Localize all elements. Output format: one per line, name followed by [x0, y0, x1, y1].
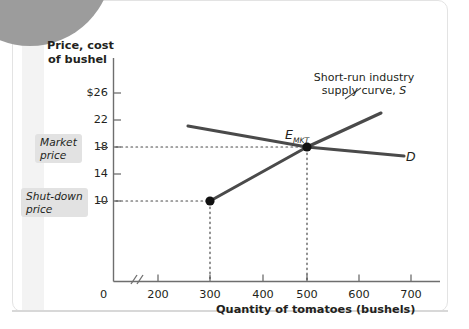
y-tick-label-22: 22	[60, 113, 108, 126]
callout-shutdown-price-line1: Shut-down	[26, 190, 83, 202]
axis-break-marks	[131, 275, 143, 284]
x-tick-label-700: 700	[391, 288, 431, 301]
y-axis-title: Price, cost of bushel	[47, 39, 107, 66]
supply-curve-label-line2: supply curve,	[322, 84, 396, 97]
x-tick-label-200: 200	[138, 288, 178, 301]
y-axis-title-line2: of bushel	[48, 53, 107, 66]
supply-curve-label: Short-run industry supply curve, S	[302, 71, 426, 97]
callout-market-price-leader	[97, 147, 108, 148]
shutdown-point-dot	[205, 196, 214, 205]
equilibrium-label-main: E	[285, 127, 293, 142]
x-axis-origin-label: 0	[100, 288, 107, 301]
equilibrium-label-sub: MKT	[293, 136, 309, 145]
y-tick-label-26: $26	[60, 86, 108, 99]
supply-curve-symbol: S	[399, 84, 406, 97]
x-tick-label-300: 300	[190, 288, 230, 301]
y-axis-title-line1: Price, cost	[47, 39, 114, 52]
callout-market-price-line1: Market	[40, 136, 77, 148]
callout-market-price-line2: price	[40, 149, 66, 161]
callout-shutdown-price: Shut-down price	[21, 188, 88, 217]
callout-shutdown-price-line2: price	[26, 203, 52, 215]
callout-shutdown-price-leader	[97, 201, 108, 202]
y-tick-label-14: 14	[60, 167, 108, 180]
figure-root: Price, cost of bushel $26 22 18 14 10 0 …	[0, 0, 469, 329]
demand-curve-label: D	[406, 149, 416, 164]
x-tick-label-500: 500	[287, 288, 327, 301]
x-tick-label-400: 400	[243, 288, 283, 301]
equilibrium-point-label: EMKT	[285, 124, 309, 145]
x-tick-marks	[158, 275, 411, 282]
x-tick-label-600: 600	[339, 288, 379, 301]
callout-market-price: Market price	[35, 134, 82, 163]
x-axis-title: Quantity of tomatoes (bushels)	[216, 303, 415, 317]
supply-curve-label-line1: Short-run industry	[314, 71, 415, 84]
